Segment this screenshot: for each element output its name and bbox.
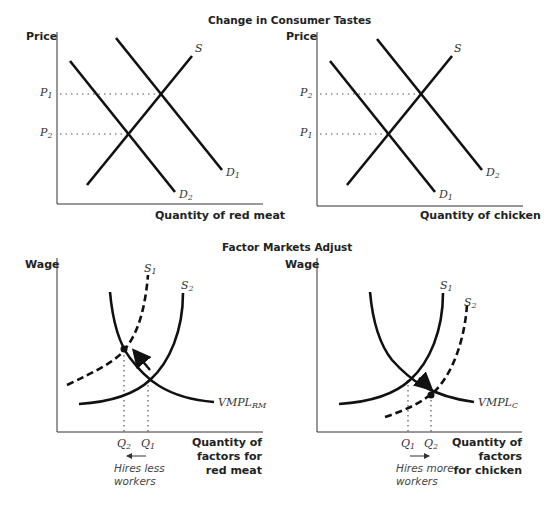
chart-factors-chicken bbox=[317, 258, 522, 456]
s2-label: S2 bbox=[181, 279, 194, 293]
x-axis-label: Quantity offactorsfor chicken bbox=[450, 436, 522, 478]
y-axis-label: Wage bbox=[25, 258, 60, 271]
d2-label: D2 bbox=[486, 166, 500, 180]
d2-label: D2 bbox=[179, 188, 193, 202]
supply-s-line bbox=[87, 56, 192, 185]
x-axis-label: Quantity of chicken bbox=[420, 209, 541, 222]
x-axis-label: Quantity of red meat bbox=[155, 209, 285, 222]
chart-factors-red-meat bbox=[57, 258, 263, 456]
supply-label: S bbox=[454, 42, 462, 55]
p1-label: P1 bbox=[300, 126, 313, 140]
vmpl-c-label: VMPLC bbox=[478, 396, 518, 410]
bottom-section-title: Factor Markets Adjust bbox=[222, 241, 352, 253]
top-section-title: Change in Consumer Tastes bbox=[208, 14, 371, 26]
s2-label: S2 bbox=[464, 296, 477, 310]
vmpl-c-curve bbox=[370, 292, 474, 402]
new-equilibrium-point bbox=[428, 392, 435, 399]
q2-label: Q2 bbox=[117, 437, 131, 451]
supply-label: S bbox=[195, 42, 203, 55]
d1-label: D1 bbox=[439, 188, 453, 202]
hires-more-note: Hires moreworkers bbox=[396, 462, 454, 488]
supply-s2-curve bbox=[79, 293, 183, 404]
p2-label: P2 bbox=[40, 126, 53, 140]
supply-s-line bbox=[347, 56, 452, 185]
hires-less-note: Hires lessworkers bbox=[114, 462, 165, 488]
demand-d1-line bbox=[116, 38, 222, 170]
s1-label: S1 bbox=[144, 262, 157, 276]
vmpl-rm-label: VMPLRM bbox=[218, 396, 266, 410]
y-axis-label: Wage bbox=[285, 258, 320, 271]
q1-label: Q1 bbox=[401, 437, 415, 451]
q2-label: Q2 bbox=[424, 437, 438, 451]
q1-label: Q1 bbox=[141, 437, 155, 451]
p2-label: P2 bbox=[300, 86, 313, 100]
charts-canvas bbox=[0, 0, 552, 510]
y-axis-label: Price bbox=[26, 30, 57, 43]
x-axis-label: Quantity offactors forred meat bbox=[190, 436, 262, 478]
s1-label: S1 bbox=[440, 279, 453, 293]
demand-d2-line bbox=[70, 61, 175, 192]
y-axis-label: Price bbox=[286, 30, 317, 43]
p1-label: P1 bbox=[40, 86, 53, 100]
new-equilibrium-point bbox=[121, 346, 128, 353]
demand-d1-line bbox=[330, 61, 435, 192]
d1-label: D1 bbox=[226, 166, 240, 180]
supply-s1-curve bbox=[67, 275, 148, 385]
demand-d2-line bbox=[377, 39, 482, 170]
